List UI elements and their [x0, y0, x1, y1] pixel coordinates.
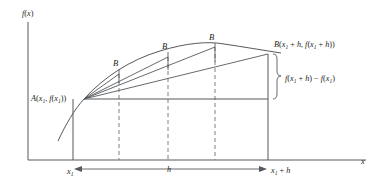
- boundary-verticals-group: [73, 54, 268, 160]
- point-b-label-2: B: [162, 41, 168, 51]
- secant-line-1: [84, 74, 119, 99]
- derivative-secant-diagram: f(x) x A(x1, f(x1)) B(x1 + h, f(x1 + h))…: [0, 0, 373, 185]
- x-axis-label: x: [360, 157, 365, 166]
- y-axis-label: f(x): [22, 9, 34, 18]
- h-measure-label: h: [167, 165, 171, 174]
- point-b-final-label: B(x1 + h, f(x1 + h)): [274, 40, 335, 50]
- secant-line-2: [84, 57, 168, 99]
- function-curve: [58, 43, 281, 141]
- h-arrow-head-right: [259, 166, 267, 172]
- secant-lines-group: [84, 47, 268, 99]
- delta-brace: [273, 54, 281, 99]
- secant-line-final: [84, 54, 268, 99]
- h-arrow-head-left: [74, 166, 82, 172]
- point-b-label-1: B: [113, 58, 119, 68]
- delta-annotation-label: f(x1 + h) − f(x1): [285, 74, 335, 84]
- dashed-verticals-group: [119, 47, 215, 160]
- x1-tick-label: x1: [66, 167, 74, 177]
- point-a-label: A(x1, f(x1)): [30, 94, 66, 104]
- x1-plus-h-tick-label: x1 + h: [270, 166, 290, 176]
- point-b-label-3: B: [209, 32, 215, 42]
